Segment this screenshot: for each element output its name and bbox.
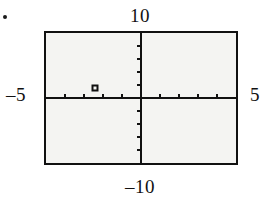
x-tick (102, 94, 104, 99)
y-tick (137, 45, 142, 47)
y-tick (137, 58, 142, 60)
y-tick (137, 123, 142, 125)
y-tick (137, 71, 142, 73)
x-tick (64, 94, 66, 99)
x-tick (197, 94, 199, 99)
x-tick (178, 94, 180, 99)
y-max-label: 10 (14, 6, 266, 25)
y-axis (140, 33, 142, 163)
x-min-label: –5 (6, 85, 26, 104)
graph-viewing-window (44, 31, 238, 165)
x-tick (121, 94, 123, 99)
y-tick (137, 136, 142, 138)
bullet-dot-icon (3, 15, 7, 19)
y-tick (137, 149, 142, 151)
y-tick (137, 84, 142, 86)
plot-area (46, 33, 236, 163)
x-max-label: 5 (250, 85, 260, 104)
x-tick (216, 94, 218, 99)
x-tick (83, 94, 85, 99)
y-tick (137, 110, 142, 112)
y-min-label: –10 (14, 177, 266, 196)
x-tick (159, 94, 161, 99)
data-point-marker (92, 84, 99, 91)
